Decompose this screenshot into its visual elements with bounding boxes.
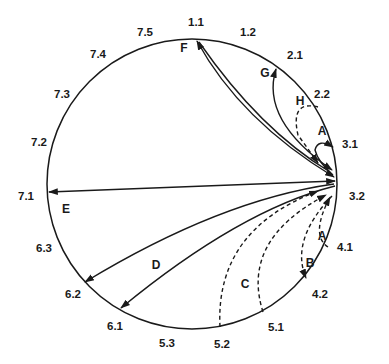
edge-label-c: C bbox=[241, 277, 250, 291]
node-2-1: 2.1 bbox=[287, 49, 304, 61]
node-4-2: 4.2 bbox=[312, 288, 328, 300]
node-5-2: 5.2 bbox=[214, 338, 230, 350]
node-7-5: 7.5 bbox=[137, 26, 154, 38]
edge-label-d: D bbox=[152, 258, 161, 272]
edge-label-a-upper: A bbox=[318, 124, 327, 138]
node-3-2: 3.2 bbox=[349, 190, 365, 202]
edge-label-b: B bbox=[306, 256, 315, 270]
node-7-1: 7.1 bbox=[18, 190, 35, 202]
node-6-2: 6.2 bbox=[65, 288, 81, 300]
edge-label-a-lower: A bbox=[318, 229, 327, 243]
node-1-2: 1.2 bbox=[240, 26, 256, 38]
transition-diagram: 1.1 1.2 2.1 2.2 3.1 3.2 4.1 4.2 5.1 5.2 … bbox=[0, 0, 389, 364]
edge-label-f: F bbox=[180, 41, 187, 55]
node-3-1: 3.1 bbox=[342, 138, 359, 150]
node-1-1: 1.1 bbox=[188, 16, 205, 28]
node-5-3: 5.3 bbox=[159, 337, 175, 349]
node-4-1: 4.1 bbox=[337, 241, 354, 253]
node-5-1: 5.1 bbox=[268, 321, 285, 333]
node-6-3: 6.3 bbox=[36, 242, 52, 254]
node-6-1: 6.1 bbox=[107, 320, 124, 332]
node-2-2: 2.2 bbox=[314, 88, 330, 100]
edge-label-g: G bbox=[260, 66, 269, 80]
node-labels: 1.1 1.2 2.1 2.2 3.1 3.2 4.1 4.2 5.1 5.2 … bbox=[18, 16, 365, 350]
edge-label-h: H bbox=[296, 94, 305, 108]
node-7-2: 7.2 bbox=[31, 136, 47, 148]
node-7-4: 7.4 bbox=[90, 48, 107, 60]
node-7-3: 7.3 bbox=[54, 88, 70, 100]
state-circle bbox=[47, 39, 337, 329]
edge-g bbox=[273, 69, 332, 170]
edge-label-e: E bbox=[62, 202, 70, 216]
edge-e bbox=[49, 181, 335, 192]
